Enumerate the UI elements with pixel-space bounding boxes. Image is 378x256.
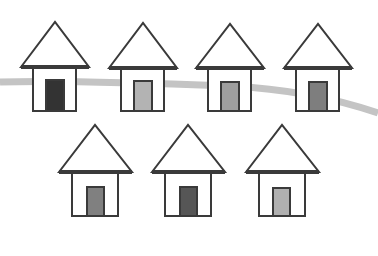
house-door bbox=[221, 82, 239, 111]
house-door bbox=[273, 188, 290, 216]
house-door bbox=[87, 187, 104, 216]
house-door bbox=[134, 81, 152, 111]
scene-svg bbox=[0, 0, 378, 256]
houses-diagram bbox=[0, 0, 378, 256]
house-door bbox=[46, 80, 64, 111]
house-door bbox=[180, 187, 197, 216]
house-door bbox=[309, 82, 327, 111]
